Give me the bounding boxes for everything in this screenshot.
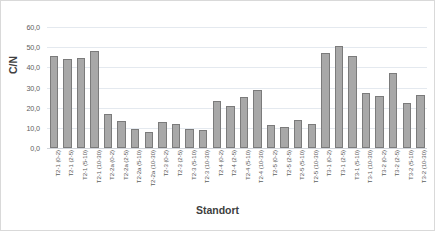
x-label-slot: T2-1 (0-2) xyxy=(47,149,61,201)
bar[interactable] xyxy=(199,130,207,148)
bar-slot xyxy=(224,27,238,148)
bar-slot xyxy=(115,27,129,148)
x-axis-title: Standort xyxy=(1,204,434,216)
bar-chart-figure: C/N 0,010,020,030,040,050,060,0 T2-1 (0-… xyxy=(0,0,435,231)
bar[interactable] xyxy=(416,95,424,148)
bar[interactable] xyxy=(389,73,397,148)
bar[interactable] xyxy=(131,129,139,148)
x-label-slot: T3-1 (5-10) xyxy=(346,149,360,201)
bar[interactable] xyxy=(375,96,383,148)
x-label-slot: T2-2a (2-5) xyxy=(115,149,129,201)
x-label-slot: T2-4 (2-5) xyxy=(224,149,238,201)
bar[interactable] xyxy=(348,56,356,148)
bar-slot xyxy=(346,27,360,148)
y-axis-tick-label: 60,0 xyxy=(26,23,40,32)
bar[interactable] xyxy=(226,106,234,148)
x-label-slot: T2-3 (2-5) xyxy=(169,149,183,201)
bar-slot xyxy=(128,27,142,148)
x-label-slot: T2-4 (0-2) xyxy=(210,149,224,201)
bar-slot xyxy=(88,27,102,148)
bar-slot xyxy=(305,27,319,148)
x-label-slot: T2-2a (0-2) xyxy=(101,149,115,201)
bar-slot xyxy=(251,27,265,148)
bar[interactable] xyxy=(185,129,193,148)
bar[interactable] xyxy=(50,56,58,148)
bar-slot xyxy=(319,27,333,148)
bar[interactable] xyxy=(172,124,180,148)
x-label-slot: T2-5 (0-2) xyxy=(264,149,278,201)
x-label-slot: T2-5 (10-30) xyxy=(305,149,319,201)
bar[interactable] xyxy=(321,53,329,148)
bar[interactable] xyxy=(213,101,221,148)
x-label-slot: T3-2 (0-2) xyxy=(373,149,387,201)
x-label-slot: T3-2 (5-10) xyxy=(400,149,414,201)
x-label-slot: T3-2 (2-5) xyxy=(386,149,400,201)
bar[interactable] xyxy=(63,59,71,148)
y-axis-tick-label: 10,0 xyxy=(26,123,40,132)
x-axis-tick-labels: T2-1 (0-2)T2-1 (2-5)T2-1 (5-10)T2-1 (10-… xyxy=(47,149,427,201)
x-label-slot: T3-1 (10-30) xyxy=(359,149,373,201)
bar[interactable] xyxy=(253,90,261,148)
bar-slot xyxy=(332,27,346,148)
bar[interactable] xyxy=(90,51,98,148)
x-label-slot: T2-4 (5-10) xyxy=(237,149,251,201)
bar-slot xyxy=(169,27,183,148)
bar[interactable] xyxy=(77,58,85,148)
bar-slot xyxy=(196,27,210,148)
bar[interactable] xyxy=(335,46,343,148)
bar[interactable] xyxy=(104,114,112,148)
x-label-slot: T2-4 (10-30) xyxy=(251,149,265,201)
x-label-slot: T3-2 (10-30) xyxy=(414,149,428,201)
bar-slot xyxy=(142,27,156,148)
bar[interactable] xyxy=(280,127,288,148)
x-label-slot: T2-5 (2-5) xyxy=(278,149,292,201)
bar[interactable] xyxy=(240,97,248,148)
x-label-slot: T2-1 (2-5) xyxy=(61,149,75,201)
x-label-slot: T2-3 (5-10) xyxy=(183,149,197,201)
x-label-slot: T2-5 (5-10) xyxy=(291,149,305,201)
y-axis-tick-label: 50,0 xyxy=(26,43,40,52)
x-label-slot: T2-2a (5-10) xyxy=(128,149,142,201)
x-label-slot: T2-3 (10-30) xyxy=(196,149,210,201)
x-axis-tick-label: T3-2 (10-30) xyxy=(420,150,427,183)
x-label-slot: T3-1 (2-5) xyxy=(332,149,346,201)
y-axis-tick-labels: 0,010,020,030,040,050,060,0 xyxy=(1,27,45,148)
bar-slot xyxy=(183,27,197,148)
bar[interactable] xyxy=(294,120,302,148)
bar-slot xyxy=(74,27,88,148)
bar-slot xyxy=(373,27,387,148)
bar-slot xyxy=(291,27,305,148)
x-label-slot: T2-2a (10-30) xyxy=(142,149,156,201)
bar[interactable] xyxy=(403,103,411,148)
bar-slot xyxy=(386,27,400,148)
y-axis-tick-label: 20,0 xyxy=(26,103,40,112)
bar-slot xyxy=(400,27,414,148)
bar-slot xyxy=(278,27,292,148)
bar-slot xyxy=(47,27,61,148)
x-label-slot: T2-1 (5-10) xyxy=(74,149,88,201)
bars-layer xyxy=(47,27,427,148)
bar[interactable] xyxy=(267,125,275,148)
y-axis-tick-label: 30,0 xyxy=(26,83,40,92)
bar-slot xyxy=(210,27,224,148)
bar-slot xyxy=(414,27,428,148)
x-label-slot: T3-1 (0-2) xyxy=(319,149,333,201)
y-axis-tick-label: 0,0 xyxy=(30,144,40,153)
bar[interactable] xyxy=(145,132,153,148)
x-label-slot: T2-3 (0-2) xyxy=(156,149,170,201)
x-label-slot: T2-1 (10-30) xyxy=(88,149,102,201)
bar[interactable] xyxy=(117,121,125,148)
bar-slot xyxy=(61,27,75,148)
bar-slot xyxy=(156,27,170,148)
bar-slot xyxy=(101,27,115,148)
bar[interactable] xyxy=(308,124,316,148)
bar[interactable] xyxy=(158,122,166,148)
bar-slot xyxy=(264,27,278,148)
bar[interactable] xyxy=(362,93,370,148)
bar-slot xyxy=(237,27,251,148)
y-axis-tick-label: 40,0 xyxy=(26,63,40,72)
bar-slot xyxy=(359,27,373,148)
